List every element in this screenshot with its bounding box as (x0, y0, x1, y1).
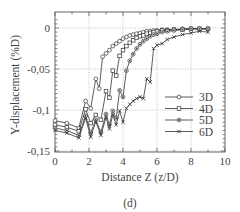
x-tick-label: 6 (154, 155, 160, 167)
x-tick-label: 8 (188, 155, 194, 167)
legend-item-3D: 3D (165, 91, 213, 103)
legend-label: 4D (199, 103, 213, 115)
y-axis-title: Y-displacement (%D) (9, 35, 22, 135)
figure-caption: (d) (123, 197, 137, 210)
legend-label: 5D (199, 114, 213, 126)
x-tick-label: 0 (52, 155, 58, 167)
x-tick-label: 4 (120, 155, 126, 167)
x-axis-title: Distance Z (z/D) (101, 171, 178, 184)
y-tick-label: 0 (45, 22, 51, 34)
legend-label: 3D (199, 91, 213, 103)
x-tick-label: 10 (220, 155, 232, 167)
y-tick-label: -0,15 (27, 145, 50, 157)
y-tick-label: -0,1 (33, 104, 50, 116)
data-series (53, 27, 210, 140)
series-4D (53, 27, 210, 133)
series-6D (53, 29, 210, 139)
legend-label: 6D (199, 126, 213, 138)
chart: 0246810 0-0,05-0,1-0,15 3D4D5D6D Distanc… (0, 0, 240, 212)
legend-item-6D: 6D (165, 126, 213, 138)
x-tick-labels: 0246810 (52, 155, 231, 167)
y-tick-label: -0,05 (27, 63, 50, 75)
y-tick-labels: 0-0,05-0,1-0,15 (27, 22, 50, 157)
x-tick-label: 2 (86, 155, 92, 167)
legend: 3D4D5D6D (165, 91, 213, 138)
legend-item-5D: 5D (165, 114, 213, 126)
series-line (55, 31, 208, 138)
legend-item-4D: 4D (165, 103, 213, 115)
